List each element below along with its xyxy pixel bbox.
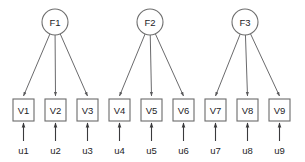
residual-label-u1: u1 [18, 145, 29, 156]
loading-arrow-f2-v6 [155, 34, 183, 96]
indicator-node-v3[interactable]: V3 [77, 99, 98, 121]
residual-label-u4: u4 [114, 145, 125, 156]
indicator-label-v4: V4 [114, 105, 126, 116]
factor-nodes: F1F2F3 [42, 9, 258, 35]
loading-arrow-f1-v1 [24, 34, 50, 96]
indicator-node-v2[interactable]: V2 [45, 99, 66, 121]
indicator-node-v7[interactable]: V7 [205, 99, 226, 121]
indicator-label-v8: V8 [242, 105, 254, 116]
residual-label-u6: u6 [178, 145, 189, 156]
indicator-label-v7: V7 [210, 105, 222, 116]
indicator-node-v9[interactable]: V9 [269, 99, 290, 121]
indicator-label-v2: V2 [50, 105, 62, 116]
residual-paths [24, 123, 280, 141]
indicator-label-v9: V9 [274, 105, 286, 116]
residual-label-u5: u5 [146, 145, 157, 156]
indicator-node-v5[interactable]: V5 [141, 99, 162, 121]
factor-label-f2: F2 [144, 17, 155, 28]
factor-node-f2[interactable]: F2 [137, 9, 163, 35]
path-diagram-canvas: F1F2F3 V1V2V3V4V5V6V7V8V9 u1u2u3u4u5u6u7… [0, 0, 305, 162]
indicator-node-v4[interactable]: V4 [109, 99, 130, 121]
indicator-nodes: V1V2V3V4V5V6V7V8V9 [13, 99, 290, 121]
factor-label-f3: F3 [239, 17, 250, 28]
indicator-node-v1[interactable]: V1 [13, 99, 34, 121]
indicator-node-v8[interactable]: V8 [237, 99, 258, 121]
indicator-label-v1: V1 [18, 105, 30, 116]
loading-arrow-f2-v5 [150, 35, 151, 96]
loading-arrow-f3-v8 [245, 35, 247, 96]
cfa-path-diagram: F1F2F3 V1V2V3V4V5V6V7V8V9 u1u2u3u4u5u6u7… [0, 0, 305, 162]
residual-label-u9: u9 [274, 145, 285, 156]
factor-loading-paths [24, 34, 280, 96]
loading-arrow-f3-v9 [250, 34, 279, 96]
factor-label-f1: F1 [49, 17, 60, 28]
loading-arrow-f2-v4 [120, 34, 146, 96]
residual-label-u3: u3 [82, 145, 93, 156]
indicator-label-v3: V3 [82, 105, 94, 116]
factor-node-f1[interactable]: F1 [42, 9, 68, 35]
residual-label-u2: u2 [50, 145, 61, 156]
loading-arrow-f1-v3 [60, 34, 87, 96]
indicator-label-v5: V5 [146, 105, 158, 116]
residual-label-u7: u7 [210, 145, 221, 156]
residual-labels: u1u2u3u4u5u6u7u8u9 [18, 145, 285, 156]
indicator-label-v6: V6 [178, 105, 190, 116]
residual-label-u8: u8 [242, 145, 253, 156]
factor-node-f3[interactable]: F3 [232, 9, 258, 35]
indicator-node-v6[interactable]: V6 [173, 99, 194, 121]
loading-arrow-f3-v7 [216, 34, 241, 96]
